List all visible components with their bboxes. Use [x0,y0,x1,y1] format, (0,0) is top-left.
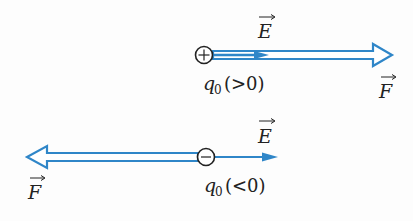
field-label-bottom: E [257,119,275,148]
negative-charge-group: E F q 0 (<0) [27,119,278,204]
force-label-top: F [378,75,396,103]
negative-charge-icon [198,149,215,166]
charge-label-negative: q 0 (<0) [204,174,266,199]
svg-text:E: E [257,20,272,42]
electric-force-diagram: E F q 0 (>0) E [0,0,413,221]
svg-text:E: E [257,125,272,147]
force-arrow-left [27,146,198,168]
positive-charge-group: E F q 0 (>0) [196,15,397,103]
svg-text:0: 0 [214,83,222,97]
svg-text:0: 0 [215,185,223,199]
field-arrow-right-bottom [214,153,278,162]
svg-text:(>0): (>0) [224,73,265,94]
svg-text:(<0): (<0) [225,175,266,196]
field-label-top: E [257,15,275,43]
force-label-bottom: F [27,176,45,204]
positive-charge-icon [196,47,213,64]
svg-text:F: F [378,80,393,102]
charge-label-positive: q 0 (>0) [203,72,265,97]
svg-text:F: F [27,181,42,203]
